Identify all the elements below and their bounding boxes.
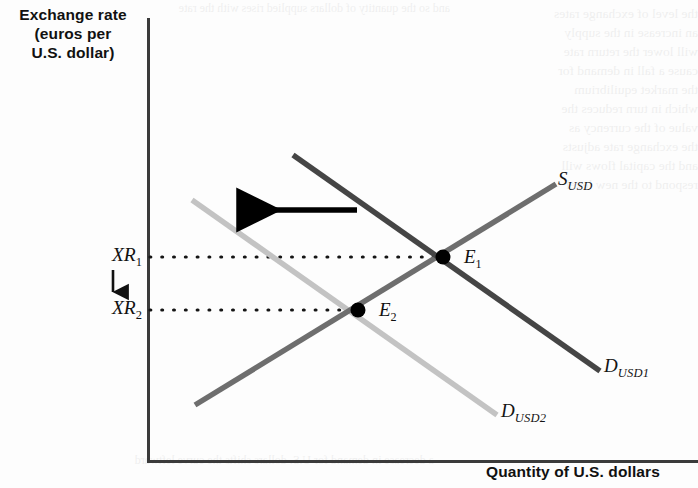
demand-curve-usd2-label: DUSD2 [501,400,546,426]
equilibrium-label-e2: E2 [379,299,397,325]
curve-lines [192,155,600,415]
price-label-xr1-sub: 1 [136,255,142,269]
equilibrium-dot-e2 [351,303,366,318]
equilibrium-label-e1: E1 [464,246,482,272]
price-label-xr2-main: XR [112,297,136,318]
demand-curve-usd2 [192,200,497,415]
equilibrium-label-e2-main: E [379,299,391,320]
supply-curve-label: SUSD [558,168,592,194]
demand-curve-usd2-label-main: D [501,400,515,421]
price-label-xr2-sub: 2 [136,308,142,322]
price-label-xr1: XR1 [86,244,142,270]
supply-curve-label-main: S [558,168,568,189]
equilibrium-dot-e1 [436,250,451,265]
equilibrium-label-e2-sub: 2 [391,310,397,324]
equilibrium-label-e1-sub: 1 [476,257,482,271]
demand-curve-usd2-label-sub: USD2 [515,411,546,425]
axis-lines [147,18,698,463]
demand-curve-usd1-label: DUSD1 [604,355,649,381]
price-label-xr2: XR2 [86,297,142,323]
supply-curve-label-sub: USD [568,179,593,193]
exchange-rate-supply-demand-figure: the level of exchange rates an increase … [0,0,698,488]
supply-curve-usd [195,184,556,405]
demand-curve-usd1-label-sub: USD1 [618,366,649,380]
price-label-xr1-main: XR [112,244,136,265]
x-axis-title: Quantity of U.S. dollars [452,463,694,482]
equilibrium-label-e1-main: E [464,246,476,267]
y-axis-title: Exchange rate (euros per U.S. dollar) [6,6,140,63]
demand-curve-usd1-label-main: D [604,355,618,376]
price-guide-lines [150,257,443,310]
